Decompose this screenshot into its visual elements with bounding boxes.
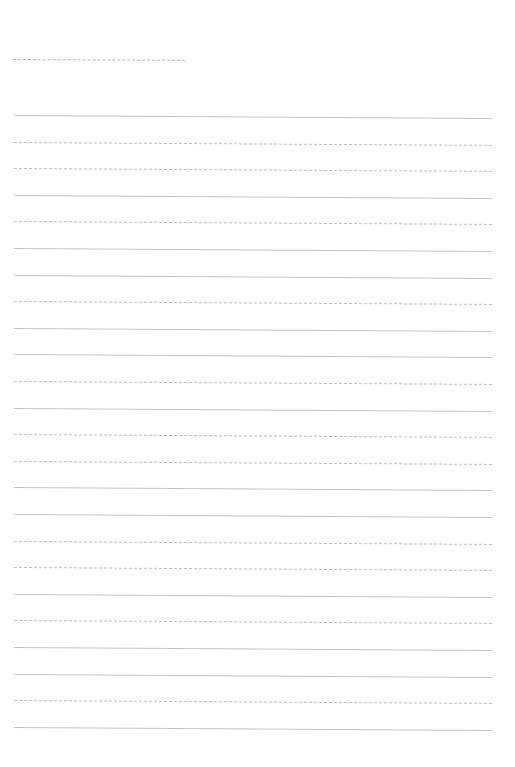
ruled-line bbox=[14, 195, 492, 199]
ruled-line bbox=[14, 567, 492, 571]
ruled-line bbox=[14, 594, 492, 598]
ruled-line bbox=[14, 461, 492, 465]
ruled-line bbox=[14, 168, 492, 172]
ruled-line bbox=[14, 248, 492, 252]
ruled-line bbox=[14, 115, 492, 119]
ruled-line bbox=[14, 381, 492, 385]
name-line bbox=[13, 59, 185, 61]
ruled-line bbox=[14, 408, 492, 412]
ruled-line bbox=[14, 727, 492, 731]
ruled-line bbox=[14, 700, 492, 704]
ruled-line bbox=[14, 142, 492, 146]
ruled-line bbox=[14, 434, 492, 438]
ruled-line bbox=[14, 620, 492, 624]
ruled-line bbox=[14, 647, 492, 651]
ruled-line bbox=[14, 301, 492, 305]
ruled-line bbox=[14, 354, 492, 358]
ruled-line bbox=[14, 275, 492, 279]
ruled-line bbox=[14, 221, 492, 225]
ruled-line bbox=[14, 674, 492, 678]
ruled-line bbox=[14, 541, 492, 545]
ruled-line bbox=[14, 328, 492, 332]
ruled-line bbox=[14, 514, 492, 518]
ruled-line bbox=[14, 487, 492, 491]
